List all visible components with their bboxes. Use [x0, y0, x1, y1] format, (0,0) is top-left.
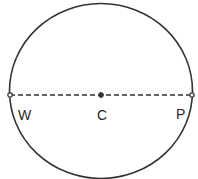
circle-outline	[10, 4, 193, 179]
label-p: P	[176, 106, 185, 122]
point-c-marker	[99, 93, 104, 98]
circle-diagram: W C P	[0, 0, 198, 179]
point-p-marker	[190, 93, 194, 97]
label-w: W	[18, 107, 32, 123]
label-c: C	[97, 107, 107, 123]
point-w-marker	[8, 93, 12, 97]
